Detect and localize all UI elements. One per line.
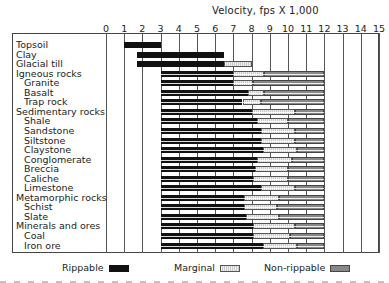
marginal-segment — [224, 61, 251, 67]
bar-stripe — [161, 179, 325, 180]
legend-item-non-rippable: Non-rippable — [264, 262, 350, 273]
bar-stripe — [161, 102, 325, 103]
bar-stripe — [161, 121, 325, 122]
bar-stripe — [161, 112, 325, 113]
bar-stripe — [161, 83, 325, 84]
bar-stripe — [161, 74, 325, 75]
rippable-segment — [137, 61, 224, 67]
gridline — [124, 33, 125, 253]
bar-stripe — [161, 160, 325, 161]
bar-stripe — [161, 131, 325, 132]
bar-stripe — [161, 141, 325, 142]
legend-label: Non-rippable — [264, 262, 325, 273]
gridline — [379, 33, 380, 253]
bar-stripe — [161, 93, 325, 94]
bar-stripe — [161, 236, 325, 237]
bar-stripe — [161, 226, 325, 227]
legend-label: Marginal — [174, 262, 215, 273]
category-label: Iron ore — [24, 241, 61, 251]
non-rippable-swatch — [330, 265, 350, 272]
marginal-swatch — [220, 265, 240, 272]
gridline — [361, 33, 362, 253]
bar-stripe — [161, 198, 325, 199]
rippable-segment — [124, 42, 160, 48]
gridline — [106, 33, 107, 253]
bar-stripe — [161, 150, 325, 151]
bar-stripe — [161, 169, 325, 170]
rippable-segment — [137, 52, 224, 58]
bar-stripe — [161, 188, 325, 189]
cropped-caption-line — [0, 278, 389, 283]
bar-stripe — [161, 246, 325, 247]
legend-label: Rippable — [62, 262, 104, 273]
bar-stripe — [161, 217, 325, 218]
legend-item-marginal: Marginal — [174, 262, 240, 273]
bar-stripe — [161, 207, 325, 208]
rippable-swatch — [109, 265, 129, 272]
chart-title: Velocity, fps X 1,000 — [212, 5, 319, 16]
legend-item-rippable: Rippable — [62, 262, 129, 273]
gridline — [343, 33, 344, 253]
